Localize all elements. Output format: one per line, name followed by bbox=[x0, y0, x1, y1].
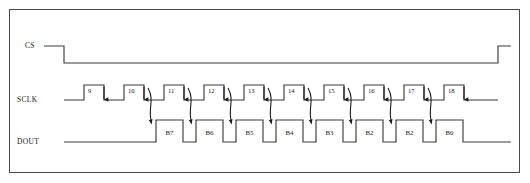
sample-curve-arrow bbox=[388, 88, 392, 124]
dout-bit-label: B2 bbox=[406, 129, 415, 136]
dout-bit-label: B7 bbox=[166, 129, 175, 136]
cs-signal-label: CS bbox=[25, 41, 35, 50]
signal-sclk: SCLK 9101112131415161718 bbox=[17, 85, 498, 104]
sclk-cycle-numbers: 9101112131415161718 bbox=[88, 87, 455, 94]
sclk-cycle-number: 18 bbox=[448, 87, 455, 94]
sclk-cycle-number: 11 bbox=[168, 87, 174, 94]
dout-bit-label: B4 bbox=[286, 129, 295, 136]
sample-curve-arrow bbox=[228, 88, 232, 124]
sample-curve-arrow bbox=[148, 88, 152, 124]
sclk-cycle-number: 14 bbox=[288, 87, 295, 94]
signal-dout: DOUT B7B6B5B4B3B2B2B0 bbox=[17, 120, 511, 146]
sample-curve-arrow bbox=[308, 88, 312, 124]
sclk-signal-label: SCLK bbox=[17, 95, 38, 104]
dout-bit-label: B3 bbox=[326, 129, 335, 136]
dout-bit-cells: B7B6B5B4B3B2B2B0 bbox=[166, 129, 455, 136]
sclk-cycle-number: 17 bbox=[408, 87, 415, 94]
sample-curve-arrow bbox=[428, 88, 432, 124]
sclk-cycle-number: 15 bbox=[328, 87, 335, 94]
dout-signal-label: DOUT bbox=[17, 137, 39, 146]
dout-bit-label: B2 bbox=[366, 129, 375, 136]
sample-curve-arrow bbox=[348, 88, 352, 124]
sclk-cycle-number: 13 bbox=[248, 87, 255, 94]
sclk-cycle-number: 10 bbox=[128, 87, 135, 94]
sclk-cycle-number: 16 bbox=[368, 87, 375, 94]
sample-curve-arrow bbox=[268, 88, 272, 124]
sclk-cycle-number: 12 bbox=[208, 87, 215, 94]
signal-cs: CS bbox=[25, 41, 511, 63]
timing-diagram-figure: CS SCLK 9101112131415161718 DOUT B7B6B5B… bbox=[0, 0, 530, 183]
dout-bit-label: B6 bbox=[206, 129, 215, 136]
dout-bit-label: B0 bbox=[446, 129, 455, 136]
cs-waveform bbox=[44, 46, 511, 63]
sample-curve-arrow bbox=[188, 88, 192, 124]
timing-diagram-canvas: CS SCLK 9101112131415161718 DOUT B7B6B5B… bbox=[0, 0, 530, 183]
dout-bit-label: B5 bbox=[246, 129, 255, 136]
sclk-cycle-number: 9 bbox=[88, 87, 92, 94]
